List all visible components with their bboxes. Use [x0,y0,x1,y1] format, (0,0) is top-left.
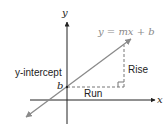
run-label: Run [84,89,102,99]
x-axis-label: x [157,95,163,105]
graph-canvas [0,0,166,126]
y-intercept-point [66,86,68,88]
y-intercept-label: y-intercept [15,68,62,78]
equation-label: y = mx + b [98,27,155,37]
b-label: b [57,81,63,91]
y-axis-label: y [62,8,68,18]
slope-line [26,39,131,117]
right-angle-marker [118,82,124,87]
rise-label: Rise [128,65,148,75]
slope-intercept-diagram: y x y = mx + b y-intercept b Rise Run [0,0,166,126]
